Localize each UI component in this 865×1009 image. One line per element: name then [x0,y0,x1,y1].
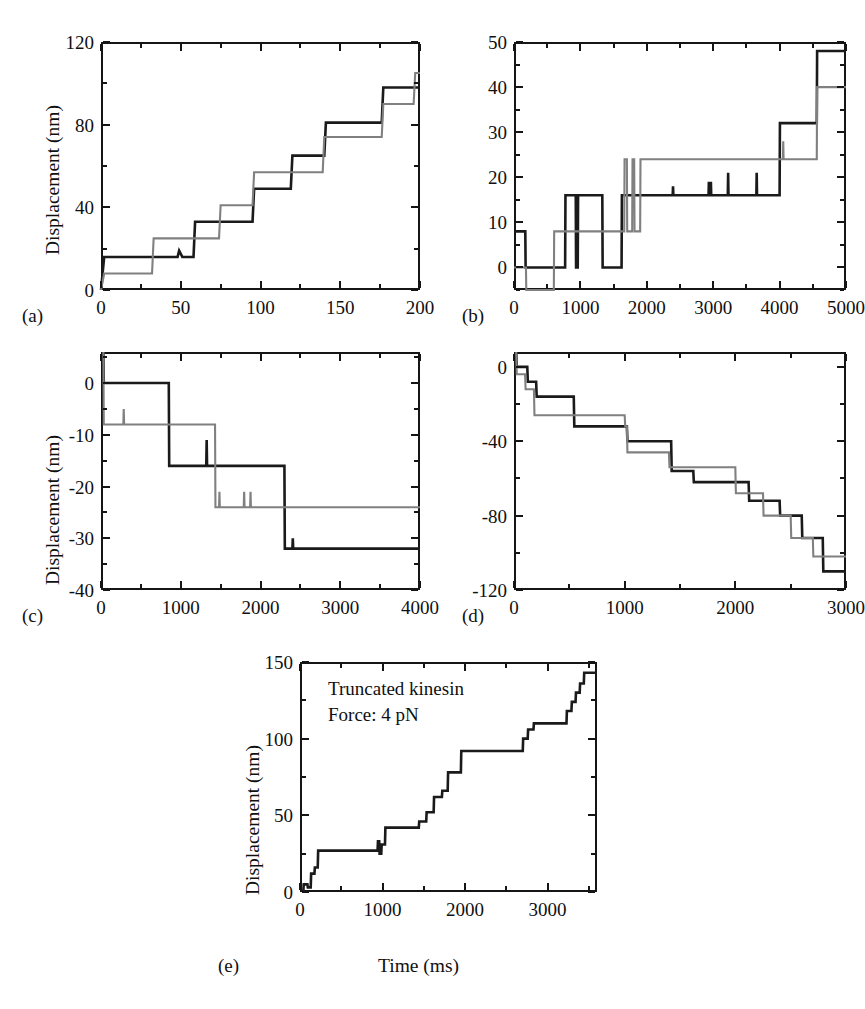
xtick-top [140,354,142,358]
ytick-right [837,366,844,368]
xtick-bottom [547,883,549,890]
xtick-top [547,664,549,671]
panel-c-xtick-label: 3000 [321,594,359,617]
xtick-bottom [260,281,262,288]
ytick-left [302,738,309,740]
xtick-top [140,44,142,48]
panel-a-traces [101,42,420,290]
xtick-bottom [423,886,425,890]
panel-b-xtick-label: 0 [509,294,519,317]
ytick-right [411,206,418,208]
panel-d-ytick-label: -120 [472,581,514,600]
xtick-bottom [812,284,814,288]
xtick-bottom [299,284,301,288]
ytick-left [103,537,110,539]
ytick-right [837,41,844,43]
panel-e-annotation-line2: Force: 4 pN [328,702,419,728]
xtick-top [679,44,681,48]
ytick-right [411,382,418,384]
panel-c-ytick-label: -40 [69,581,101,600]
panel-a: Displacement (nm) (a) 050100150200040801… [0,0,440,330]
panel-d-traces [514,352,846,590]
ytick-right [588,891,595,893]
xtick-top [100,354,102,361]
panel-e-ytick-label: 50 [274,806,300,825]
ytick-left [103,124,110,126]
ytick-right [591,853,595,855]
xtick-bottom [382,883,384,890]
panel-b-ytick-label: 40 [488,78,514,97]
ytick-right [411,434,418,436]
panel-c-xtick-label: 2000 [242,594,280,617]
xtick-bottom [339,281,341,288]
ytick-left [302,853,306,855]
panel-d-plot [514,352,846,590]
xtick-bottom [464,883,466,890]
panel-e-ylabel: Displacement (nm) [242,745,264,895]
trace-gray [514,87,846,290]
panel-d-xtick-label: 3000 [827,594,865,617]
panel-d-xtick-label: 2000 [716,594,754,617]
ytick-right [837,589,844,591]
panel-b-ytick-label: 50 [488,33,514,52]
panel-a-ylabel: Displacement (nm) [42,105,64,255]
panel-e-label: (e) [218,955,239,977]
panel-b-xtick-label: 2000 [628,294,666,317]
xtick-top [339,354,341,361]
xtick-bottom [140,584,142,588]
xtick-bottom [779,281,781,288]
xtick-bottom [646,281,648,288]
ytick-left [103,511,107,513]
ytick-left [103,41,110,43]
xtick-bottom [340,886,342,890]
xtick-bottom [419,581,421,588]
ytick-right [840,477,844,479]
panel-b-ytick-label: 0 [498,258,515,277]
ytick-right [837,131,844,133]
xtick-bottom [220,284,222,288]
xtick-top [180,44,182,51]
xtick-bottom [790,584,792,588]
panel-c-ytick-label: -10 [69,425,101,444]
xtick-bottom [505,886,507,890]
panel-e-ytick-label: 100 [265,729,301,748]
ytick-right [411,537,418,539]
ytick-left [516,244,520,246]
xtick-top [546,44,548,48]
ytick-left [516,109,520,111]
panel-e-xtick-label: 2000 [446,896,484,919]
ytick-right [837,266,844,268]
xtick-bottom [379,584,381,588]
ytick-left [103,486,110,488]
panel-a-xtick-label: 50 [171,294,190,317]
panel-c-ytick-label: 0 [85,374,102,393]
ytick-left [103,460,107,462]
xtick-top [712,44,714,51]
panel-d-ytick-label: 0 [498,357,515,376]
ytick-left [516,589,523,591]
ytick-right [840,289,844,291]
ytick-left [516,366,523,368]
ytick-right [840,199,844,201]
xtick-bottom [180,581,182,588]
ytick-left [516,515,523,517]
xtick-top [299,354,301,358]
xtick-top [505,664,507,668]
ytick-left [103,382,110,384]
ytick-left [516,289,520,291]
panel-c-label: (c) [22,605,43,627]
panel-e-plot: Truncated kinesin Force: 4 pN [300,662,597,892]
ytick-left [516,64,520,66]
xtick-top [464,664,466,671]
ytick-left [516,131,523,133]
xtick-bottom [339,581,341,588]
xtick-top [220,44,222,48]
panel-c-traces [101,352,420,590]
xtick-bottom [624,581,626,588]
ytick-right [840,244,844,246]
ytick-right [840,64,844,66]
xtick-top [419,354,421,361]
ytick-right [588,661,595,663]
panel-a-ytick-label: 40 [75,198,101,217]
ytick-left [103,589,110,591]
